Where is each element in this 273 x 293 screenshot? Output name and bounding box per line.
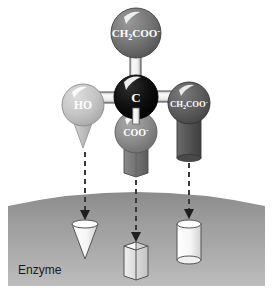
atom-ch2coo-right: CH2COO-: [168, 82, 210, 124]
atom-ch2coo-top: CH2COO-: [111, 8, 161, 58]
label-carbon: C: [131, 90, 140, 105]
atom-ho: HO: [62, 84, 104, 126]
binding-site-hex-prism: [124, 242, 148, 280]
diagram-canvas: CH2COO- HO CH2COO- COO- C: [0, 0, 273, 293]
label-coo: COO-: [123, 126, 149, 139]
binding-site-cylinder: [177, 220, 201, 264]
label-ch2coo-right: CH2COO-: [170, 98, 208, 110]
chirality-enzyme-diagram: CH2COO- HO CH2COO- COO- C: [0, 0, 273, 293]
enzyme-label: Enzyme: [18, 263, 62, 277]
label-ho: HO: [74, 99, 92, 111]
bond-carbon-coo-visible: [133, 108, 140, 124]
